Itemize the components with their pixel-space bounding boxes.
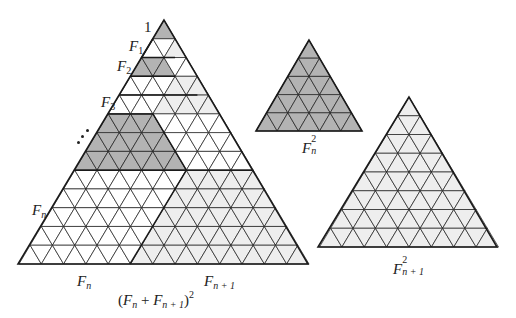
ellipsis-dot-1	[77, 141, 80, 144]
fn-squared-dark-triangle	[256, 40, 362, 131]
label-fn-bottom: Fn	[77, 274, 91, 291]
label-one: 1	[144, 20, 152, 35]
label-f3: F3	[101, 95, 115, 112]
grid-cell	[298, 40, 319, 58]
grid-cell	[153, 20, 175, 39]
fibonacci-triangle-diagram	[0, 0, 516, 318]
big-triangle-grid	[18, 20, 309, 264]
label-f2: F2	[117, 59, 131, 76]
label-sum-squared: (Fn + Fn + 1)2	[118, 290, 194, 310]
label-fn1-squared: F2n + 1	[393, 262, 432, 277]
ellipsis-dot-3	[86, 129, 89, 132]
label-fn1-bottom: Fn + 1	[204, 274, 235, 291]
ellipsis-dot-2	[81, 135, 84, 138]
grid-cell	[398, 97, 420, 116]
label-fn-left: Fn	[32, 203, 46, 220]
label-fn-squared: F2n	[302, 141, 329, 156]
label-f1: F1	[129, 39, 143, 56]
